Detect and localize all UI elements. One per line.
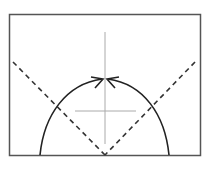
right-dashed-line — [105, 62, 195, 155]
right-arrowhead-icon — [107, 77, 119, 88]
left-dashed-line — [13, 62, 105, 155]
left-arc-curve — [40, 79, 102, 155]
right-arc-curve — [108, 79, 169, 155]
trajectory-diagram — [0, 0, 212, 169]
left-arrowhead-icon — [91, 77, 103, 88]
